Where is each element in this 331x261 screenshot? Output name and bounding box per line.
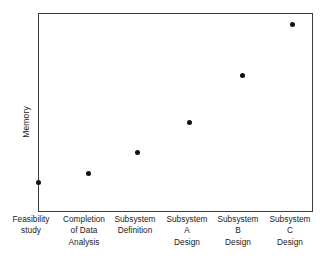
plot-area-frame: [38, 13, 313, 212]
x-axis-tick-label: Subsystem C Design: [253, 214, 327, 248]
data-point: [36, 180, 41, 185]
data-point: [86, 171, 91, 176]
y-axis-title: Memory: [21, 106, 31, 138]
data-point: [187, 120, 192, 125]
data-point: [290, 22, 295, 27]
data-point: [135, 150, 140, 155]
data-point: [240, 73, 245, 78]
chart-figure: Memory Feasibility studyCompletion of Da…: [0, 0, 331, 261]
x-axis-label-group: Feasibility studyCompletion of Data Anal…: [0, 214, 331, 261]
